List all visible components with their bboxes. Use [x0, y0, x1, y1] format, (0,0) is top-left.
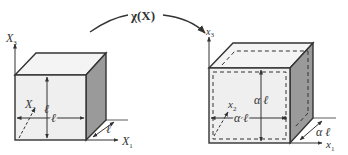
reference-horizontal-length-label: ℓ [51, 111, 56, 125]
deformed-horizontal-length-label: α ℓ [234, 111, 248, 125]
reference-cube [15, 44, 128, 140]
reference-x3-label: X3 [5, 31, 17, 47]
deformed-x3-label: x3 [205, 26, 214, 39]
deformed-depth-length-label: α ℓ [316, 125, 330, 139]
deformed-x1-label: x1 [325, 138, 335, 153]
reference-vertical-length-label: ℓ [44, 102, 49, 116]
front-face [209, 68, 290, 143]
reference-depth-length-label: ℓ [106, 122, 111, 136]
reference-x1-label: X1 [121, 134, 133, 150]
deformation-diagram: χ(X) X3 X2 X1 ℓ ℓ ℓ [0, 0, 348, 155]
mapping-label: χ(X) [130, 8, 155, 23]
deformed-vertical-length-label: α ℓ [254, 93, 268, 107]
